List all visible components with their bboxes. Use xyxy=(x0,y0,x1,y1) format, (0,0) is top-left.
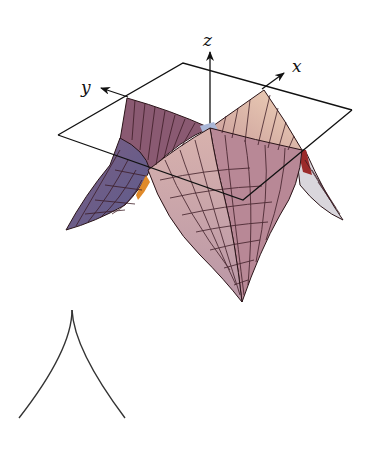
z-axis-label: z xyxy=(202,30,213,50)
y-axis-label: y xyxy=(80,77,91,97)
cusp-curve xyxy=(19,310,125,418)
figure: z x y xyxy=(0,0,384,451)
wing-left xyxy=(66,138,150,230)
x-axis-label: x xyxy=(292,56,302,76)
plane-back xyxy=(58,63,352,135)
x-axis xyxy=(262,73,284,89)
surface xyxy=(66,90,343,302)
y-axis xyxy=(101,88,128,97)
